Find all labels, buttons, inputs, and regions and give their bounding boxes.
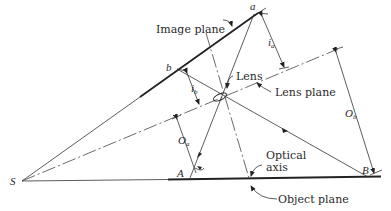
object-plane-line	[22, 177, 381, 182]
dimension-i-b	[177, 69, 199, 104]
dimension-i-a	[258, 13, 289, 69]
point-A-label: A	[176, 167, 184, 179]
dimension-o-b	[333, 47, 382, 175]
scheimpflug-diagram: Image plane Lens Lens plane Optical axis…	[0, 0, 391, 211]
image-plane-label: Image plane	[156, 23, 225, 36]
object-plane-label: Object plane	[278, 193, 349, 206]
point-a-label: a	[250, 0, 256, 12]
o-b-label: Ob	[345, 107, 357, 121]
lens-label: Lens	[236, 70, 263, 83]
optical-axis-label-line2: axis	[266, 161, 288, 174]
point-S-label: S	[10, 175, 16, 187]
i-b-label: ib	[191, 82, 198, 96]
lens-plane-label: Lens plane	[275, 86, 336, 99]
optical-axis-line	[206, 33, 249, 178]
point-b-label: b	[166, 61, 172, 73]
point-B-label: B	[362, 164, 369, 176]
o-a-label: Oa	[178, 134, 190, 148]
